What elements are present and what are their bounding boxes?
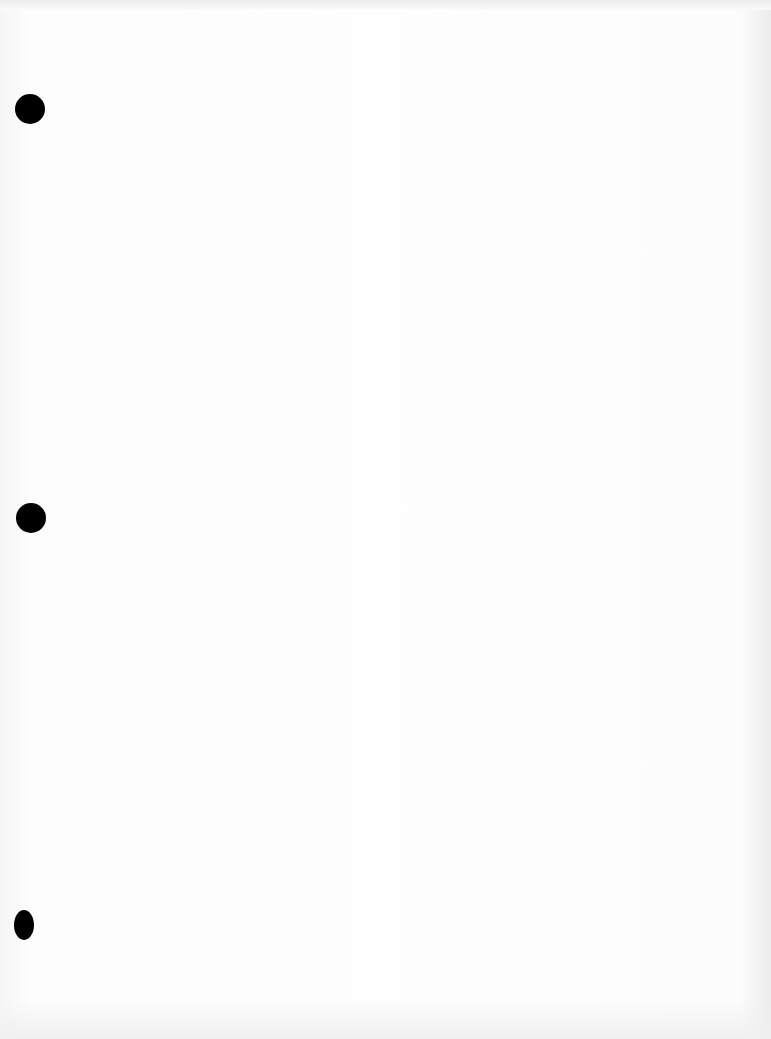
- scanned-page: [0, 0, 771, 1039]
- punch-hole-bottom: [14, 910, 34, 940]
- punch-hole-top: [15, 94, 45, 124]
- punch-hole-middle: [16, 503, 46, 533]
- scan-edge-bottom: [0, 999, 771, 1039]
- scan-edge-top: [0, 0, 771, 10]
